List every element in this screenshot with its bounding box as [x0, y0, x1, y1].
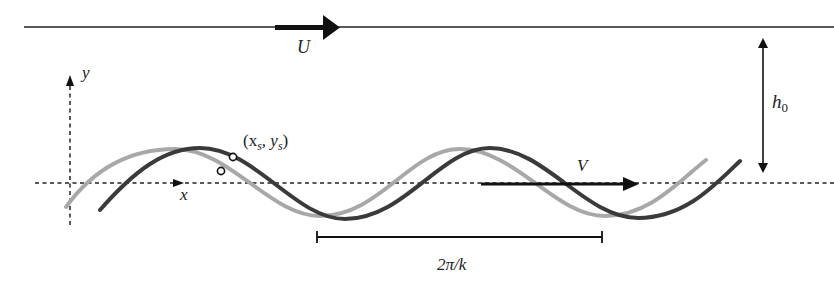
wavelength-label: 2π/k: [437, 255, 467, 274]
y-axis-label: y: [80, 63, 90, 82]
wavelength-scale-bar: [317, 231, 602, 243]
u-velocity-label: U: [297, 37, 311, 57]
v-velocity-label: V: [577, 156, 590, 175]
height-label: h0: [772, 91, 788, 115]
y-axis-arrow-icon: [66, 75, 74, 86]
x-axis-label: x: [179, 185, 188, 204]
surface-point-current: [229, 153, 236, 160]
surface-point-previous: [217, 167, 224, 174]
flow-diagram: U h0 y x (xs, ys) V 2π/k: [0, 0, 834, 282]
surface-point-label: (xs, ys): [243, 131, 288, 153]
height-double-arrow-icon: [758, 38, 768, 173]
